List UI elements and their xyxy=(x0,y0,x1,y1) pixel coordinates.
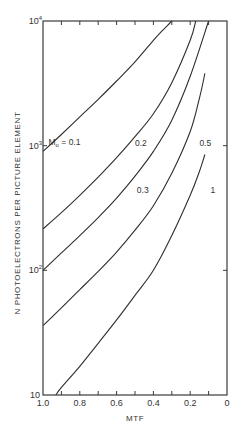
y-tick-label: 103 xyxy=(29,140,43,151)
curve-label: Mo = 0.1 xyxy=(49,137,81,148)
curve-label-group: Mo = 0.10.20.30.51 xyxy=(49,137,216,195)
curve-label: 0.3 xyxy=(137,185,149,195)
y-axis-title: N PHOTOELECTRONS PER PICTURE ELEMENT xyxy=(13,112,22,315)
x-tick-label: 0.4 xyxy=(147,398,160,408)
curve-m0-0-2 xyxy=(43,21,196,229)
plot-frame xyxy=(43,21,227,395)
curve-m0-0-1 xyxy=(43,21,172,151)
curve-group xyxy=(43,21,209,395)
curve-m0-0-5 xyxy=(43,73,205,325)
x-tick-label: 0.8 xyxy=(74,398,87,408)
tick-group xyxy=(43,21,227,395)
tick-label-group: 1.00.80.60.40.2010102103104 xyxy=(29,15,230,408)
x-tick-label: 0.6 xyxy=(110,398,123,408)
mtf-photoelectron-chart: 1.00.80.60.40.2010102103104 Mo = 0.10.20… xyxy=(0,0,245,428)
curve-m0-1 xyxy=(56,155,205,396)
curve-label: 1 xyxy=(210,185,215,195)
y-tick-label: 102 xyxy=(29,264,43,275)
y-tick-label: 104 xyxy=(29,15,43,26)
y-tick-label: 10 xyxy=(30,390,40,400)
curve-label: 0.5 xyxy=(199,138,211,148)
x-axis-title: MTF xyxy=(126,414,144,423)
x-tick-label: 0.2 xyxy=(184,398,197,408)
x-tick-label: 0 xyxy=(224,398,229,408)
curve-label: 0.2 xyxy=(135,138,147,148)
